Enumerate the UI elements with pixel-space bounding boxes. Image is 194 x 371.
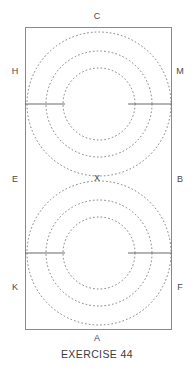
label-right-m: M (172, 67, 188, 76)
label-top-c: C (0, 12, 194, 21)
geometry-diagram (0, 0, 194, 371)
figure-caption: EXERCISE 44 (0, 348, 194, 360)
label-right-f: F (172, 283, 188, 292)
label-center-x: X (0, 174, 194, 183)
label-left-h: H (8, 67, 22, 76)
lower-circle-inner (63, 217, 135, 289)
label-left-k: K (8, 283, 22, 292)
exercise-figure: C H M E X B K F A EXERCISE 44 (0, 0, 194, 371)
label-right-b: B (172, 175, 188, 184)
label-bottom-a: A (0, 334, 194, 343)
lower-circle-group (25, 181, 172, 325)
upper-circle-group (25, 32, 172, 176)
upper-circle-inner (63, 68, 135, 140)
